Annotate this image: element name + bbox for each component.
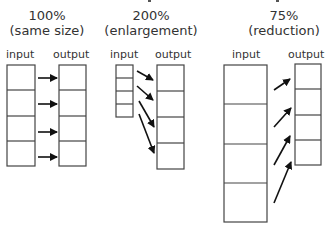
output-label: output bbox=[288, 48, 325, 61]
panel-enlargement: 200% (enlargement) input output bbox=[104, 8, 197, 169]
panel-title: 75% bbox=[270, 8, 299, 23]
panel-subtitle: (enlargement) bbox=[104, 23, 197, 38]
arrow-icon bbox=[137, 71, 153, 80]
mapping-arrows bbox=[274, 79, 291, 203]
output-stack bbox=[59, 65, 86, 166]
input-stack bbox=[224, 65, 267, 222]
output-stack bbox=[157, 65, 184, 169]
panel-subtitle: (same size) bbox=[10, 23, 85, 38]
input-stack bbox=[116, 65, 133, 117]
input-label: input bbox=[110, 48, 139, 61]
scaling-diagram: 100% (same size) input output 200% (enla… bbox=[0, 0, 329, 231]
arrow-icon bbox=[139, 114, 154, 153]
clipped-top-text bbox=[148, 0, 279, 2]
panel-same-size: 100% (same size) input output bbox=[6, 8, 90, 166]
arrow-icon bbox=[274, 108, 291, 127]
mapping-arrows bbox=[38, 78, 57, 157]
output-label: output bbox=[53, 48, 90, 61]
mapping-arrows bbox=[137, 71, 154, 153]
arrow-icon bbox=[137, 86, 153, 100]
panel-reduction: 75% (reduction) input output bbox=[224, 8, 325, 222]
output-stack bbox=[295, 64, 321, 165]
panel-title: 200% bbox=[132, 8, 169, 23]
panel-title: 100% bbox=[28, 8, 65, 23]
output-label: output bbox=[155, 48, 192, 61]
input-label: input bbox=[6, 48, 35, 61]
arrow-icon bbox=[274, 79, 290, 90]
arrow-icon bbox=[274, 136, 290, 165]
input-label: input bbox=[232, 48, 261, 61]
input-stack bbox=[7, 65, 35, 166]
panel-subtitle: (reduction) bbox=[248, 23, 320, 38]
arrow-icon bbox=[274, 162, 291, 203]
arrow-icon bbox=[139, 101, 154, 127]
